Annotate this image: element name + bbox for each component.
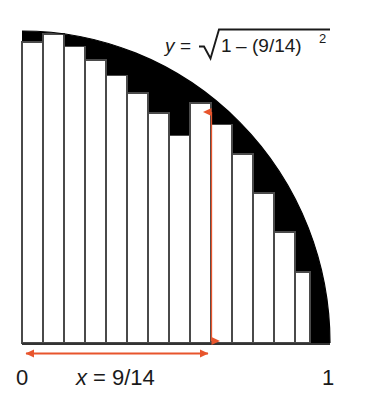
formula-minus: – bbox=[236, 35, 247, 56]
x-measure-label-value: 9/14 bbox=[112, 365, 155, 390]
x-measure-label-equals: = bbox=[93, 365, 106, 390]
riemann-bar bbox=[232, 154, 253, 343]
riemann-bar bbox=[274, 232, 295, 343]
svg-text:1: 1 bbox=[221, 35, 232, 56]
x-measure-label-var: x bbox=[75, 365, 88, 390]
svg-text:(9/14): (9/14) bbox=[252, 35, 302, 56]
riemann-bar bbox=[169, 135, 190, 343]
riemann-bar bbox=[211, 125, 232, 343]
riemann-bar bbox=[148, 113, 169, 343]
formula-equals: = bbox=[180, 35, 191, 56]
riemann-bar bbox=[22, 42, 43, 343]
svg-text:–: – bbox=[236, 35, 247, 56]
svg-text:y: y bbox=[163, 35, 176, 56]
x-measure-label: x = 9/14 bbox=[75, 365, 155, 390]
riemann-bar bbox=[106, 76, 127, 344]
riemann-bar bbox=[127, 93, 148, 343]
formula-lhs: y bbox=[163, 35, 176, 56]
formula-radicand-b: (9/14) bbox=[252, 35, 302, 56]
x-axis-origin-label: 0 bbox=[16, 365, 28, 390]
svg-text:=: = bbox=[180, 35, 191, 56]
riemann-bar bbox=[190, 103, 211, 343]
riemann-bar bbox=[295, 272, 310, 343]
riemann-bar bbox=[64, 46, 85, 343]
riemann-bar bbox=[43, 34, 64, 343]
riemann-bar bbox=[85, 60, 106, 343]
formula-radicand-a: 1 bbox=[221, 35, 232, 56]
x-axis-end-label: 1 bbox=[322, 365, 334, 390]
svg-text:2: 2 bbox=[319, 31, 326, 46]
riemann-bar bbox=[253, 193, 274, 343]
quarter-circle-riemann-figure: y = 1 – (9/14) 2 0 1 x = 9/14 bbox=[0, 0, 367, 395]
formula-exponent: 2 bbox=[319, 31, 326, 46]
